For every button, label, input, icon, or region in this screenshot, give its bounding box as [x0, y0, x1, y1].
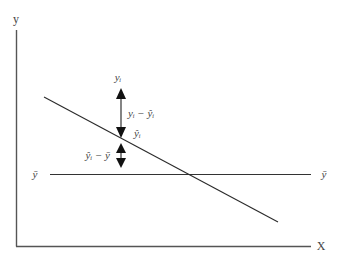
- explained-arrow: [116, 143, 126, 168]
- axes: y X: [13, 12, 326, 253]
- explained-label: ŷᵢ − ȳ: [85, 149, 112, 161]
- observed-point-label: yᵢ: [114, 71, 122, 83]
- mean-label-left: ȳ: [32, 168, 39, 180]
- residual-arrow: [116, 88, 126, 138]
- y-axis-label: y: [13, 12, 19, 26]
- arrow-up-icon: [116, 88, 126, 99]
- arrow-up-icon: [116, 143, 126, 153]
- arrow-down-icon: [116, 158, 126, 168]
- residual-label: yᵢ − ŷᵢ: [127, 107, 154, 119]
- x-axis-label: X: [317, 239, 326, 253]
- fitted-point-label: ŷᵢ: [133, 127, 141, 139]
- regression-diagram: y X ȳ ȳ yᵢ yᵢ − ŷᵢ ŷᵢ ŷᵢ − ȳ: [0, 0, 351, 262]
- regression-line: [44, 97, 278, 222]
- mean-label-right: ȳ: [321, 168, 328, 180]
